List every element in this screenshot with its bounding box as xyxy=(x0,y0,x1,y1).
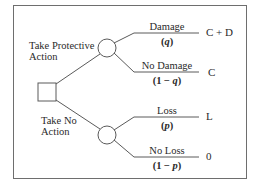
probability-p: (p) xyxy=(161,120,173,131)
action-label-protective: Take Protective Action xyxy=(29,40,94,62)
outcome-l: L xyxy=(206,111,213,122)
decision-node-square xyxy=(38,83,56,101)
action-label-line2: Action xyxy=(29,51,94,62)
action-label-line1: Take No xyxy=(41,115,77,126)
chance-node-protective xyxy=(98,39,116,57)
branch-loss xyxy=(114,117,199,130)
outcome-c: C xyxy=(208,67,215,78)
event-label-damage: Damage xyxy=(150,21,185,32)
action-label-line2: Action xyxy=(41,126,77,137)
event-label-no-loss: No Loss xyxy=(149,145,184,156)
outcome-zero: 0 xyxy=(206,151,212,162)
branch-damage xyxy=(114,33,199,43)
chance-node-no-action xyxy=(98,126,116,144)
probability-1-minus-p: (1 − p) xyxy=(153,160,182,171)
action-label-no-action: Take No Action xyxy=(41,115,77,137)
outcome-c-plus-d: C + D xyxy=(206,27,233,38)
event-label-loss: Loss xyxy=(157,105,177,116)
probability-q: (q) xyxy=(161,36,173,47)
probability-1-minus-q: (1 − q) xyxy=(153,75,182,86)
event-label-no-damage: No Damage xyxy=(142,60,192,71)
action-label-line1: Take Protective xyxy=(29,40,94,51)
